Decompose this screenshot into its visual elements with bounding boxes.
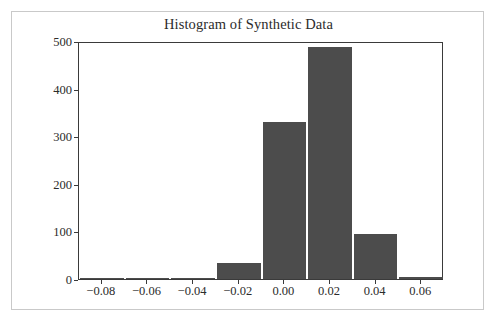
- y-axis-tick-label: 200: [32, 179, 72, 191]
- histogram-bar: [125, 278, 171, 279]
- y-axis-labels: 0100200300400500: [26, 42, 72, 280]
- histogram-bar: [398, 277, 444, 279]
- histogram-bar: [307, 47, 353, 279]
- histogram-bar: [170, 278, 216, 279]
- histogram-bar: [353, 234, 399, 279]
- histogram-bar: [216, 263, 262, 279]
- chart-page: Histogram of Synthetic Data 010020030040…: [0, 0, 497, 322]
- y-axis-tick-label: 500: [32, 36, 72, 48]
- y-axis-tick-label: 100: [32, 226, 72, 238]
- histogram-bar: [262, 122, 308, 279]
- plot-area: [78, 42, 443, 280]
- y-axis-tick-label: 300: [32, 131, 72, 143]
- page-title: Histogram of Synthetic Data: [0, 16, 497, 33]
- histogram-bar: [79, 278, 125, 279]
- x-axis-tick-label: 0.06: [390, 284, 450, 299]
- y-axis-tick-label: 0: [32, 274, 72, 286]
- y-axis-tick-label: 400: [32, 84, 72, 96]
- histogram-bars: [79, 43, 442, 279]
- x-axis-labels: −0.08−0.06−0.04−0.020.000.020.040.06: [78, 284, 443, 304]
